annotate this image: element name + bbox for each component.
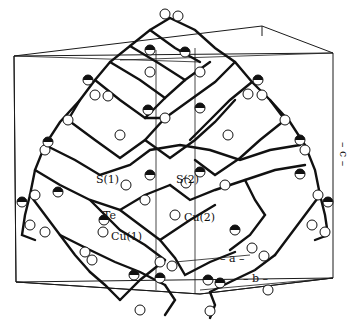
axis-label-c: – c – bbox=[338, 142, 349, 166]
cation-atoms bbox=[17, 45, 333, 288]
crystal-structure-diagram: S(1) S(2) Te Cu(1) Cu(2) – a – – b – – c… bbox=[0, 0, 358, 330]
unit-cell-drawing bbox=[0, 0, 358, 330]
label-te: Te bbox=[103, 210, 116, 221]
axis-label-b: – b – bbox=[243, 273, 268, 284]
label-s1: S(1) bbox=[96, 174, 119, 185]
axis-label-a: – a – bbox=[220, 253, 245, 264]
bond-network bbox=[22, 18, 328, 318]
unit-cell-box bbox=[14, 26, 333, 294]
label-cu2: Cu(2) bbox=[184, 212, 215, 223]
label-cu1: Cu(1) bbox=[111, 231, 142, 242]
label-s2: S(2) bbox=[176, 174, 199, 185]
